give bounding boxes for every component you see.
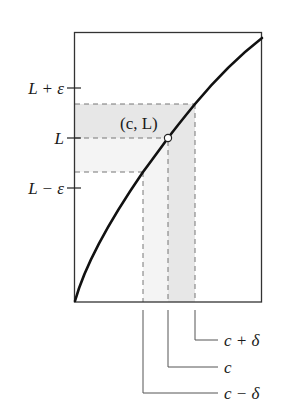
label-c-minus-delta: c − δ bbox=[224, 384, 261, 403]
label-c: c bbox=[224, 358, 232, 377]
x-label-leaders bbox=[143, 310, 218, 393]
label-point-c-l: (c, L) bbox=[120, 114, 158, 133]
leader-c-plus-delta bbox=[195, 310, 218, 340]
delta-band-left bbox=[143, 172, 168, 302]
label-l: L bbox=[54, 129, 64, 148]
delta-band-right bbox=[168, 138, 195, 302]
label-l-plus-epsilon: L + ε bbox=[27, 79, 64, 98]
leader-c-minus-delta bbox=[143, 310, 218, 393]
leader-c bbox=[168, 310, 218, 367]
label-c-plus-delta: c + δ bbox=[224, 331, 261, 350]
point-c-l-marker bbox=[164, 134, 171, 141]
label-l-minus-epsilon: L − ε bbox=[27, 179, 64, 198]
epsilon-delta-diagram: L + ε L L − ε (c, L) c + δ c c − δ bbox=[0, 0, 285, 410]
